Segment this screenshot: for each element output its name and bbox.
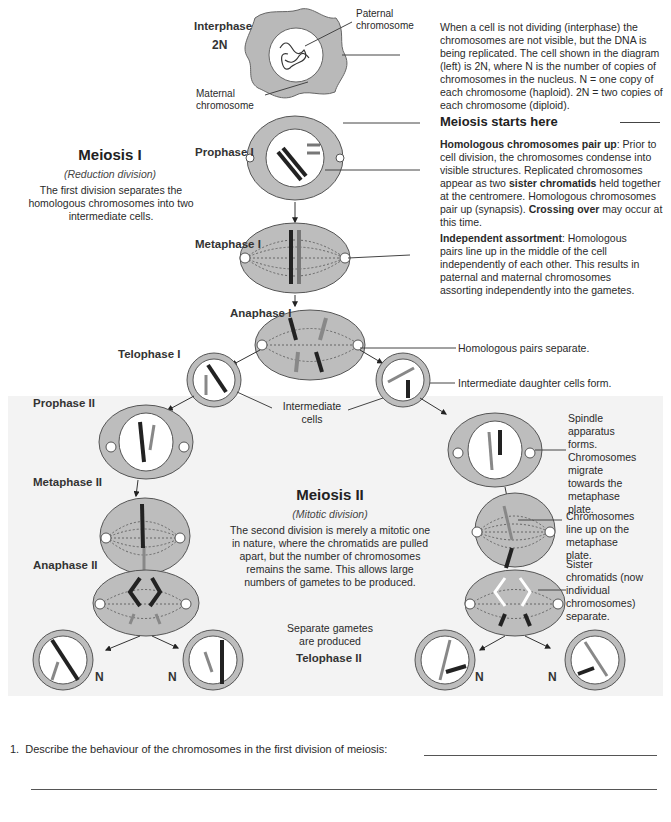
anaphase-i-note: Homologous pairs separate. — [458, 342, 589, 355]
note-bold-independent-assortment: Independent assortment — [440, 232, 562, 244]
interphase-description: When a cell is not dividing (interphase)… — [440, 21, 665, 112]
answer-line-1[interactable] — [424, 755, 657, 756]
metaphase-i-note: Independent assortment: Homologous pairs… — [440, 232, 650, 297]
meiosis-i-title: Meiosis I — [30, 146, 190, 163]
stage-label-metaphase-ii: Metaphase II — [33, 476, 102, 488]
meiosis-ii-title: Meiosis II — [250, 486, 410, 503]
stage-label-prophase-i: Prophase I — [195, 146, 254, 158]
stage-label-telophase-i: Telophase I — [118, 348, 180, 360]
meiosis-ii-description: The second division is merely a mitotic … — [226, 524, 434, 589]
prophase-ii-note: Spindle apparatus forms. Chromosomes mig… — [568, 412, 640, 516]
gamete-ploidy-label: N — [168, 670, 177, 684]
stage-label-prophase-ii: Prophase II — [33, 397, 95, 409]
meiosis-i-subtitle: (Reduction division) — [30, 168, 190, 180]
gamete-ploidy-label: N — [475, 670, 484, 684]
note-bold-sister-chromatids: sister chromatids — [509, 177, 597, 189]
gamete-ploidy-label: N — [95, 670, 104, 684]
separate-gametes-label: Separate gametes are produced — [282, 622, 378, 648]
meiosis-ii-subtitle: (Mitotic division) — [250, 508, 410, 520]
heading-rule — [620, 122, 660, 123]
prophase-i-note: Homologous chromosomes pair up: Prior to… — [440, 138, 665, 229]
stage-label-anaphase-i: Anaphase I — [230, 307, 291, 319]
question-number: 1. — [10, 743, 19, 755]
stage-label-interphase: Interphase — [194, 20, 252, 32]
stage-label-telophase-ii: Telophase II — [296, 652, 362, 664]
stage-label-anaphase-ii: Anaphase II — [33, 559, 98, 571]
question-text: Describe the behaviour of the chromosome… — [25, 743, 387, 755]
intermediate-cells-label: Intermediate cells — [272, 400, 352, 426]
meiosis-starts-here-heading: Meiosis starts here — [440, 114, 558, 129]
gamete-ploidy-label: N — [548, 670, 557, 684]
telophase-i-note: Intermediate daughter cells form. — [458, 377, 612, 390]
meiosis-i-description: The first division separates the homolog… — [28, 184, 194, 223]
metaphase-ii-note: Chromosomes line up on the metaphase pla… — [566, 510, 646, 562]
paternal-chromosome-label: Paternal chromosome — [356, 8, 416, 32]
note-bold-crossing-over: Crossing over — [529, 203, 600, 215]
anaphase-ii-note: Sister chromatids (now individual chromo… — [566, 558, 646, 623]
stage-label-metaphase-i: Metaphase I — [195, 238, 261, 250]
ploidy-label-2n: 2N — [212, 38, 227, 52]
answer-line-2[interactable] — [31, 789, 657, 790]
question-1: 1. Describe the behaviour of the chromos… — [10, 743, 387, 756]
maternal-chromosome-label: Maternal chromosome — [196, 88, 266, 112]
note-bold-homologous-pair-up: Homologous chromosomes pair up — [440, 138, 617, 150]
